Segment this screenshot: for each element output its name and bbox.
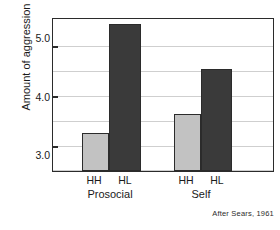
group-label-self: Self [156,188,246,200]
bar-self-hh [174,114,201,171]
y-tick-mark-5 [53,46,58,48]
x-label-prosocial-hh: HH [77,174,111,186]
bar-chart-figure: Amount of aggression 3.0 4.0 5.0 HH HL H… [0,0,280,230]
group-label-prosocial: Prosocial [65,188,155,200]
x-label-self-hl: HL [200,174,234,186]
gridline-3-5 [53,121,273,122]
source-attribution: After Sears, 1961 [212,209,274,218]
gridline-4-5 [53,71,273,72]
x-label-self-hh: HH [169,174,203,186]
gridline-5-0 [53,46,273,47]
y-tick-mark-3 [53,146,58,148]
x-label-prosocial-hl: HL [108,174,142,186]
bar-prosocial-hl [109,24,141,171]
y-tick-label-3: 3.0 [24,149,50,161]
x-axis-labels: HH HL HH HL Prosocial Self [52,174,274,214]
gridline-4-0 [53,96,273,97]
y-tick-mark-4 [53,96,58,98]
y-axis-tick-labels: 3.0 4.0 5.0 [22,0,50,230]
plot-area [52,18,274,172]
bar-self-hl [201,69,232,171]
bar-prosocial-hh [82,133,109,171]
y-tick-label-4: 4.0 [24,91,50,103]
y-tick-label-5: 5.0 [24,32,50,44]
